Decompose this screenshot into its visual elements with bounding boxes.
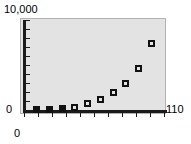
- x-axis-tick: [66, 113, 67, 117]
- data-point-layer: [24, 20, 164, 110]
- x-axis-tick: [136, 113, 137, 117]
- data-point: [122, 80, 129, 87]
- x-axis-tick: [94, 113, 95, 117]
- x-axis-tick: [108, 113, 109, 117]
- x-axis-tick: [80, 113, 81, 117]
- x-axis-tick: [150, 113, 151, 117]
- data-point: [148, 40, 155, 47]
- x-axis-line: [23, 110, 167, 113]
- x-axis-max-label: 110: [166, 104, 184, 115]
- y-axis-tick: [26, 110, 30, 111]
- scatter-chart: 10,000 0 110 0: [0, 0, 191, 144]
- data-point: [33, 106, 40, 113]
- data-point: [59, 105, 66, 112]
- x-axis-tick: [52, 113, 53, 117]
- data-point: [97, 96, 104, 103]
- x-axis-tick: [122, 113, 123, 117]
- x-axis-min-label: 0: [14, 128, 20, 139]
- x-axis-tick: [24, 113, 25, 117]
- data-point: [135, 65, 142, 72]
- data-point: [110, 89, 117, 96]
- data-point: [46, 106, 53, 113]
- y-axis-min-label: 0: [6, 104, 12, 115]
- data-point: [71, 104, 78, 111]
- x-axis-tick: [164, 113, 165, 117]
- data-point: [84, 100, 91, 107]
- y-axis-max-label: 10,000: [4, 4, 38, 15]
- x-axis-tick: [38, 113, 39, 117]
